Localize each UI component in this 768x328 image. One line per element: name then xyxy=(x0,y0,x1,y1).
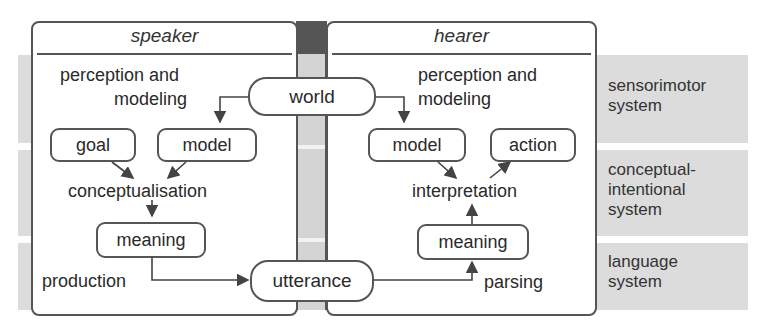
hearer-meaning-node: meaning xyxy=(417,224,529,260)
hearer-perception-label: perception and xyxy=(418,64,537,86)
system-label-sensorimotor: sensorimotor system xyxy=(608,76,706,116)
hearer-parsing-label: parsing xyxy=(484,271,543,293)
hearer-action-node: action xyxy=(490,128,576,162)
speaker-model-node: model xyxy=(157,128,257,162)
speaker-production-label: production xyxy=(42,270,126,292)
speaker-perception-label-2: modeling xyxy=(114,88,187,110)
hearer-interpretation-label: interpretation xyxy=(412,180,517,202)
utterance-node: utterance xyxy=(250,260,374,302)
world-node: world xyxy=(248,77,376,116)
speaker-conceptualisation-label: conceptualisation xyxy=(68,180,207,202)
speaker-meaning-node: meaning xyxy=(96,222,206,258)
hearer-perception-label-2: modeling xyxy=(418,88,491,110)
speaker-perception-label: perception and xyxy=(60,64,179,86)
hearer-model-node: model xyxy=(368,128,466,162)
system-label-conceptual-intentional: conceptual- intentional system xyxy=(608,160,696,220)
system-label-language: language system xyxy=(608,252,678,292)
speaker-goal-node: goal xyxy=(50,128,136,162)
